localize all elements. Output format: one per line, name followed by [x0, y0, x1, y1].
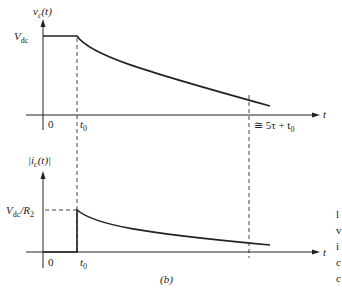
vdc-r2-label: Vdc/R2 — [6, 204, 34, 219]
top-t0-label: t0 — [80, 118, 87, 133]
side-text-fragment-3: i — [336, 240, 339, 252]
figure-caption: (b) — [160, 273, 173, 286]
rc-discharge-diagram: vc(t) Vdc 0 t0 ≅ 5τ + t0 t |ic(t)| Vdc/R… — [0, 0, 342, 295]
settle-label: ≅ 5τ + t0 — [254, 119, 294, 134]
top-y-label: vc(t) — [33, 5, 52, 20]
bottom-t0-label: t0 — [80, 256, 87, 271]
top-y-arrow-icon — [41, 19, 46, 27]
side-text-fragment-4: c — [336, 256, 341, 268]
top-x-axis-label: t — [323, 108, 327, 120]
bottom-y-arrow-icon — [41, 171, 46, 179]
top-x-arrow-icon — [312, 113, 320, 118]
bottom-x-arrow-icon — [312, 250, 320, 255]
bottom-origin-label: 0 — [48, 256, 54, 268]
side-text-fragment-2: v — [336, 224, 342, 236]
bottom-y-label: |ic(t)| — [28, 154, 51, 169]
ic-waveform — [43, 210, 270, 252]
top-origin-label: 0 — [48, 118, 54, 130]
side-text-fragment-5: c — [336, 272, 341, 284]
side-text-fragment-1: l — [336, 208, 339, 220]
vdc-label: Vdc — [14, 30, 29, 45]
bottom-x-axis-label: t — [323, 246, 327, 258]
